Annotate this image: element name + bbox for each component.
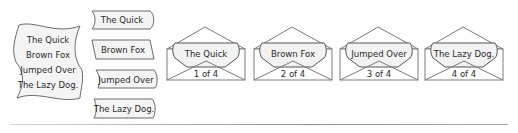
banner-the-quick: The Quick — [92, 11, 154, 29]
banner-the-lazy-dog: The Lazy Dog. — [93, 99, 155, 118]
envelope-label: The Quick — [184, 49, 228, 59]
stacked-line-3: Jumped Over — [19, 65, 76, 75]
envelope-4: The Lazy Dog. 4 of 4 — [425, 27, 503, 80]
banner-label: The Lazy Dog. — [93, 104, 155, 114]
banner-jumped-over: Jumped Over — [96, 70, 157, 88]
envelope-page: 3 of 4 — [367, 69, 391, 79]
banner-label: The Quick — [100, 15, 144, 25]
banner-label: Jumped Over — [97, 75, 154, 85]
envelope-label: Jumped Over — [350, 49, 407, 59]
envelope-1: The Quick 1 of 4 — [167, 27, 245, 80]
envelope-page: 4 of 4 — [452, 69, 476, 79]
stacked-banner: The Quick Brown Fox Jumped Over The Lazy… — [14, 24, 83, 100]
stacked-line-4: The Lazy Dog. — [17, 80, 79, 90]
divider-line — [10, 124, 508, 125]
envelope-page: 1 of 4 — [194, 69, 218, 79]
banner-label: Brown Fox — [101, 45, 145, 55]
envelope-2: Brown Fox 2 of 4 — [254, 27, 332, 80]
envelope-page: 2 of 4 — [281, 69, 305, 79]
stacked-line-1: The Quick — [26, 35, 70, 45]
envelope-3: Jumped Over 3 of 4 — [340, 27, 418, 80]
envelope-label: The Lazy Dog. — [433, 49, 495, 59]
banner-brown-fox: Brown Fox — [92, 40, 154, 59]
envelope-label: Brown Fox — [271, 49, 315, 59]
stacked-line-2: Brown Fox — [26, 50, 70, 60]
